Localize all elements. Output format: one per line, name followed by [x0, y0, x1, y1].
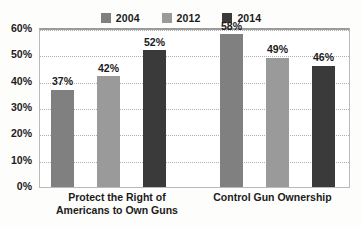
plot-frame: 37%42%52%58%49%46% — [39, 28, 350, 188]
gridline — [40, 30, 349, 31]
bar-value-label: 37% — [52, 76, 73, 87]
bar[interactable]: 52% — [143, 50, 166, 187]
legend-item-2012[interactable]: 2012 — [162, 13, 201, 24]
x-axis-category-label-1: Control Gun Ownership — [195, 191, 350, 204]
legend-swatch-icon-2004 — [101, 13, 111, 23]
bar[interactable]: 58% — [220, 34, 243, 187]
y-axis-tick-label: 40% — [11, 75, 32, 86]
legend-label-2012: 2012 — [177, 13, 201, 24]
legend-label-2004: 2004 — [116, 13, 140, 24]
y-axis-tick-label: 60% — [11, 23, 32, 34]
gridline — [40, 135, 349, 136]
bar-chart: 2004 2012 2014 0%10%20%30%40%50%60% 37%4… — [0, 0, 362, 227]
bar-value-label: 49% — [267, 44, 288, 55]
bar[interactable]: 46% — [312, 66, 335, 187]
bar-value-label: 52% — [144, 37, 165, 48]
gridline — [40, 109, 349, 110]
chart-legend: 2004 2012 2014 — [0, 11, 362, 25]
gridline — [40, 83, 349, 84]
bar[interactable]: 42% — [97, 76, 120, 187]
legend-swatch-icon-2012 — [162, 13, 172, 23]
gridline — [40, 56, 349, 57]
y-axis: 0%10%20%30%40%50%60% — [0, 28, 36, 188]
y-axis-tick-label: 10% — [11, 154, 32, 165]
y-axis-tick-label: 30% — [11, 102, 32, 113]
y-axis-tick-label: 0% — [17, 181, 32, 192]
bar[interactable]: 49% — [266, 58, 289, 187]
bar[interactable]: 37% — [51, 90, 74, 187]
gridline — [40, 162, 349, 163]
y-axis-tick-label: 20% — [11, 128, 32, 139]
bar-value-label: 46% — [313, 52, 334, 63]
bar-value-label: 58% — [221, 21, 242, 32]
bar-value-label: 42% — [98, 63, 119, 74]
x-axis-category-label-0: Protect the Right of Americans to Own Gu… — [39, 191, 195, 216]
y-axis-tick-label: 50% — [11, 49, 32, 60]
legend-item-2004[interactable]: 2004 — [101, 13, 140, 24]
plot-area: 37%42%52%58%49%46% — [40, 30, 349, 187]
